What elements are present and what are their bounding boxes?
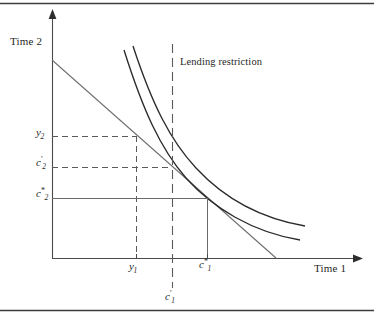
- x-axis-title: Time 1: [314, 263, 346, 274]
- x-tick-label-c1-star: c*1: [199, 259, 212, 270]
- y-axis-arrowhead: [49, 9, 57, 19]
- y-tick-sub-c2-prime: 2: [42, 162, 46, 171]
- x-tick-sub-c1-prime: 1: [171, 296, 175, 305]
- y-tick-label-c2-star: c*2: [36, 188, 49, 199]
- x-tick-label-y1: y1: [129, 261, 138, 272]
- y-tick-sub-y2: 2: [40, 132, 44, 141]
- figure-container: Time 2 Time 1 Lending restriction y2 c′2…: [0, 0, 374, 316]
- x-tick-sub-y1: 1: [133, 266, 137, 275]
- budget-constraint-line: [52, 60, 276, 258]
- lending-restriction-label: Lending restriction: [180, 57, 262, 68]
- axis-group: [49, 9, 363, 263]
- y-tick-label-c2-prime: c′2: [36, 157, 46, 168]
- x-tick-sub-c1-star: 1: [207, 264, 211, 273]
- x-tick-label-c1-prime: c′1: [165, 291, 175, 302]
- y-tick-label-y2: y2: [36, 127, 45, 138]
- y-tick-sub-c2-star: 2: [44, 193, 48, 202]
- indifference-curve-inner: [124, 50, 300, 240]
- y-axis-title: Time 2: [10, 36, 42, 47]
- x-axis-arrowhead: [353, 254, 363, 262]
